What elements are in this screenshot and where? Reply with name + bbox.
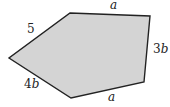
side-label-upper-left: 5 <box>27 22 35 36</box>
side-label-right: 3b <box>153 42 168 56</box>
side-label-top: a <box>110 0 117 12</box>
side-label-lower-left: 4b <box>24 77 39 91</box>
pentagon-diagram: a 3b a 4b 5 <box>0 0 170 107</box>
side-label-bottom: a <box>108 90 115 104</box>
